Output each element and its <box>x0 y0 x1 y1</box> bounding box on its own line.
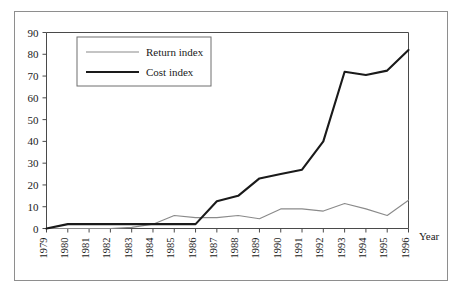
x-tick-label: 1993 <box>336 238 347 259</box>
x-tick-label: 1981 <box>80 238 91 259</box>
x-tick-label: 1980 <box>59 238 70 259</box>
y-tick-label: 90 <box>28 27 40 39</box>
x-tick-label: 1987 <box>208 238 219 259</box>
x-tick-label: 1989 <box>250 238 261 259</box>
y-tick-label: 60 <box>28 92 40 104</box>
x-tick-label: 1979 <box>38 238 49 259</box>
legend-label-cost-index: Cost index <box>146 66 194 78</box>
x-tick-label: 1990 <box>272 238 283 259</box>
x-tick-label: 1995 <box>378 238 389 259</box>
y-tick-label: 70 <box>28 70 40 82</box>
chart-canvas: 0102030405060708090 19791980198119821983… <box>0 0 462 295</box>
y-axis: 0102030405060708090 <box>28 27 47 235</box>
x-axis-title: Year <box>419 230 440 242</box>
y-tick-label: 40 <box>28 135 40 147</box>
y-tick-label: 0 <box>33 223 39 235</box>
y-tick-label: 30 <box>28 157 40 169</box>
y-tick-label: 80 <box>28 48 40 60</box>
x-tick-label: 1994 <box>357 237 368 259</box>
x-tick-label: 1992 <box>314 238 325 259</box>
line-chart: 0102030405060708090 19791980198119821983… <box>0 0 462 295</box>
y-tick-label: 20 <box>28 179 40 191</box>
x-axis: 1979198019811982198319841985198619871988… <box>38 229 411 259</box>
x-tick-label: 1996 <box>400 238 411 259</box>
legend-label-return-index: Return index <box>146 46 204 58</box>
x-tick-label: 1991 <box>293 238 304 259</box>
x-tick-label: 1985 <box>165 238 176 259</box>
legend-box <box>77 37 211 86</box>
x-tick-label: 1982 <box>101 238 112 259</box>
x-tick-label: 1984 <box>144 237 155 259</box>
x-tick-label: 1988 <box>229 238 240 259</box>
x-tick-label: 1986 <box>187 238 198 259</box>
y-tick-label: 10 <box>28 201 40 213</box>
x-tick-label: 1983 <box>123 238 134 259</box>
chart-legend: Return index Cost index <box>77 37 211 86</box>
y-tick-label: 50 <box>28 114 40 126</box>
